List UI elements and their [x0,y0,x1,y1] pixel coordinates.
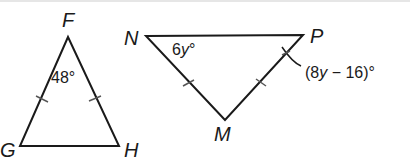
angle-label-p: (8y − 16)° [305,65,375,81]
angle-arc-p [282,47,301,66]
vertex-label-f: F [62,10,74,30]
angle-label-n: 6y° [172,42,195,58]
vertex-label-p: P [310,26,323,46]
angle-p-open: (8 [305,64,319,81]
angle-label-f: 48° [51,70,75,86]
vertex-label-m: M [214,124,231,144]
angle-n-variable: y [181,41,189,58]
angle-n-coefficient: 6 [172,41,181,58]
vertex-label-g: G [0,140,16,160]
vertex-label-h: H [124,140,138,160]
vertex-label-n: N [124,28,138,48]
triangle-fgh [20,37,119,146]
angle-n-degree: ° [189,41,195,58]
angle-p-rest: − 16)° [327,64,375,81]
triangle-npm [146,35,303,120]
